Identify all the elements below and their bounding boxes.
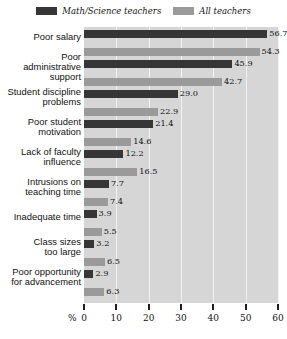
bar-value-label: 12.2 — [123, 149, 143, 158]
category-label: Student disciplineproblems — [0, 87, 81, 107]
bar-math-science — [84, 210, 97, 218]
bar-math-science — [84, 90, 178, 98]
category-label: Poor studentmotivation — [0, 117, 81, 137]
bar-value-label: 6.5 — [105, 257, 120, 266]
bar-math-science — [84, 180, 109, 188]
axis-tick-label: 60 — [272, 313, 283, 323]
bar-value-label: 42.7 — [222, 77, 242, 86]
bar-math-science — [84, 60, 232, 68]
axis-tick-label: 30 — [175, 313, 186, 323]
axis-tick — [148, 304, 150, 310]
axis-tick-label: 50 — [240, 313, 251, 323]
bar-value-label: 6.3 — [104, 287, 119, 296]
bar-all-teachers — [84, 78, 222, 86]
category-label: Class sizestoo large — [0, 237, 81, 257]
bar-value-label: 2.9 — [93, 269, 108, 278]
legend-label: Math/Science teachers — [62, 7, 161, 16]
bar-value-label: 45.9 — [232, 59, 252, 68]
bar-all-teachers — [84, 48, 260, 56]
axis-tick-label: 40 — [208, 313, 219, 323]
chart-legend: Math/Science teachersAll teachers — [0, 3, 287, 19]
bar-value-label: 14.6 — [131, 137, 151, 146]
axis-tick-label: 20 — [143, 313, 154, 323]
axis-tick — [115, 304, 117, 310]
legend-entry: Math/Science teachers — [36, 7, 161, 16]
legend-label: All teachers — [199, 7, 250, 16]
bar-math-science — [84, 240, 94, 248]
axis-tick — [180, 304, 182, 310]
category-label: Poor salary — [0, 32, 81, 42]
legend-entry: All teachers — [173, 7, 250, 16]
category-label: Intrusions onteaching time — [0, 177, 81, 197]
bar-value-label: 54.3 — [260, 47, 280, 56]
axis-unit-label: % — [68, 313, 77, 323]
axis-tick — [245, 304, 247, 310]
axis-tick-label: 0 — [81, 313, 87, 323]
bar-all-teachers — [84, 108, 158, 116]
bar-all-teachers — [84, 138, 131, 146]
bar-value-label: 56.7 — [267, 29, 287, 38]
bar-value-label: 3.2 — [94, 239, 109, 248]
bar-all-teachers — [84, 198, 108, 206]
x-axis: 0102030405060 — [84, 303, 278, 339]
bar-all-teachers — [84, 288, 104, 296]
bar-value-label: 16.5 — [137, 167, 157, 176]
category-label: Poor opportunityfor advancement — [0, 267, 81, 287]
axis-tick — [83, 304, 85, 310]
legend-swatch-all-teachers — [173, 7, 194, 15]
bar-all-teachers — [84, 258, 105, 266]
category-label: Pooradministrativesupport — [0, 52, 81, 83]
bar-value-label: 7.4 — [108, 197, 123, 206]
bar-math-science — [84, 120, 153, 128]
bar-math-science — [84, 270, 93, 278]
chart-row: Intrusions onteaching time7.77.4 — [0, 180, 287, 210]
bar-value-label: 21.4 — [153, 119, 173, 128]
bar-math-science — [84, 150, 123, 158]
chart-row: Poor opportunityfor advancement2.96.3 — [0, 270, 287, 300]
legend-swatch-math-science — [36, 7, 57, 15]
bar-value-label: 5.5 — [102, 227, 117, 236]
axis-tick — [212, 304, 214, 310]
axis-tick — [277, 304, 279, 310]
bar-all-teachers — [84, 228, 102, 236]
axis-tick-label: 10 — [111, 313, 122, 323]
category-label: Inadequate time — [0, 212, 81, 222]
bar-value-label: 29.0 — [178, 89, 198, 98]
bar-value-label: 7.7 — [109, 179, 124, 188]
bar-chart: Math/Science teachersAll teachers Poor s… — [0, 0, 287, 339]
bar-math-science — [84, 30, 267, 38]
bar-value-label: 3.9 — [97, 209, 112, 218]
category-label: Lack of facultyinfluence — [0, 147, 81, 167]
bar-value-label: 22.9 — [158, 107, 178, 116]
bar-all-teachers — [84, 168, 137, 176]
